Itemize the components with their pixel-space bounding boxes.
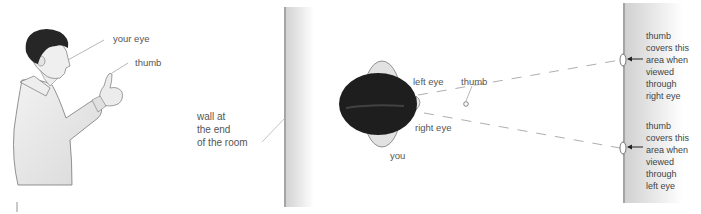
label-thumb-left: thumb [135, 57, 161, 69]
right-eye-sight-line [424, 113, 620, 148]
left-eye-sight-line [418, 60, 620, 95]
label-you: you [390, 150, 405, 162]
label-area-right-eye: thumb covers this area when viewed throu… [646, 30, 689, 102]
head-top-view [339, 61, 420, 147]
diagram-svg [0, 0, 701, 214]
parallax-diagram: your eye thumb wall at the end of the ro… [0, 0, 701, 214]
your-eye-leader-line [68, 40, 104, 60]
covered-area-right-eye [620, 54, 626, 66]
left-wall [284, 7, 314, 207]
label-area-left-eye: thumb covers this area when viewed throu… [646, 120, 689, 192]
label-thumb-right: thumb [461, 76, 487, 88]
thumb-leader-line [112, 63, 128, 73]
label-left-eye: left eye [413, 76, 444, 88]
label-your-eye: your eye [113, 33, 149, 45]
person-illustration [14, 29, 123, 185]
thumb-point-marker [464, 102, 469, 107]
label-right-eye: right eye [415, 122, 451, 134]
label-wall: wall at the end of the room [197, 110, 248, 149]
covered-area-left-eye [620, 142, 626, 154]
wall-leader-line [262, 118, 285, 142]
